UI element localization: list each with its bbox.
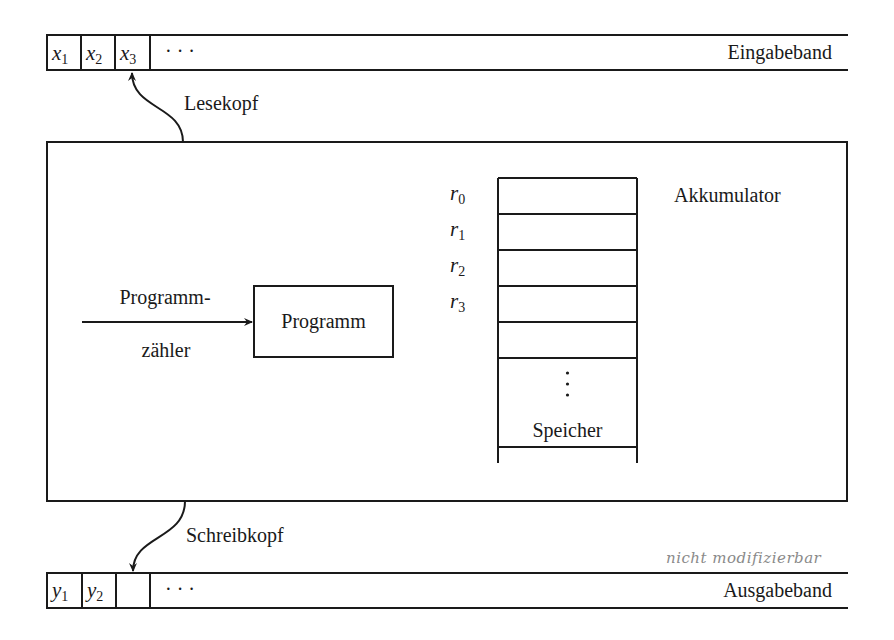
memory-label: Speicher bbox=[533, 419, 603, 442]
input-tape: x1 x2 x3 · · · Eingabeband bbox=[46, 35, 848, 70]
ram-machine-diagram: x1 x2 x3 · · · Eingabeband Lesekopf Prog… bbox=[0, 0, 894, 640]
input-tape-cell: x1 bbox=[51, 41, 68, 67]
program-counter-label-line1: Programm- bbox=[119, 286, 210, 309]
register-label: r2 bbox=[450, 253, 465, 279]
output-tape-cell: y1 bbox=[50, 578, 68, 604]
memory-stack: r0 r1 r2 r3 Speicher bbox=[450, 178, 637, 463]
input-tape-ellipsis: · · · bbox=[165, 40, 195, 62]
input-tape-cell: x2 bbox=[85, 41, 102, 67]
accumulator-label: Akkumulator bbox=[674, 184, 781, 206]
output-tape: nicht modifizierbar y1 y2 · · · Ausgabeb… bbox=[46, 549, 848, 608]
read-head-arrow bbox=[132, 73, 183, 142]
write-head-label: Schreibkopf bbox=[186, 524, 284, 547]
write-head-arrow bbox=[133, 501, 185, 571]
memory-vdots bbox=[566, 371, 569, 396]
output-tape-label: Ausgabeband bbox=[723, 579, 832, 602]
program-label: Programm bbox=[281, 310, 366, 333]
register-label: r3 bbox=[450, 289, 465, 315]
write-head: Schreibkopf bbox=[133, 501, 284, 571]
program-counter-label-line2: zähler bbox=[142, 339, 191, 361]
register-label: r1 bbox=[450, 217, 465, 243]
machine: Programm- zähler Programm r0 r1 r2 r3 bbox=[47, 142, 847, 501]
read-head-label: Lesekopf bbox=[184, 92, 259, 115]
output-tape-annotation: nicht modifizierbar bbox=[666, 549, 822, 567]
input-tape-cell: x3 bbox=[119, 41, 136, 67]
output-tape-cell: y2 bbox=[85, 578, 103, 604]
input-tape-label: Eingabeband bbox=[728, 41, 832, 64]
output-tape-ellipsis: · · · bbox=[165, 578, 195, 600]
register-label: r0 bbox=[450, 181, 465, 207]
read-head: Lesekopf bbox=[132, 73, 259, 142]
